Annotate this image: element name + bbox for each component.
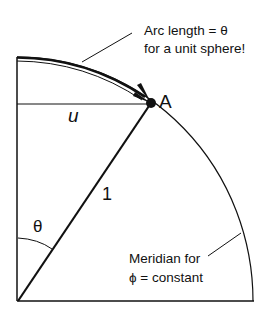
- point-a: [146, 98, 156, 108]
- u-label: u: [68, 105, 79, 126]
- point-a-label: A: [159, 91, 172, 112]
- meridian-note-line2: ϕ = constant: [129, 270, 203, 285]
- meridian-diagram: A u 1 θ Arc length = θ for a unit sphere…: [0, 0, 270, 321]
- arc-length-highlight: [17, 58, 145, 98]
- arc-note-line2: for a unit sphere!: [144, 41, 245, 56]
- arc-note-leader: [82, 33, 132, 62]
- theta-angle-arc: [18, 238, 52, 249]
- theta-label: θ: [33, 217, 42, 236]
- arc-note-line1: Arc length = θ: [144, 23, 228, 38]
- meridian-note-leader: [208, 233, 241, 256]
- radius-label: 1: [102, 184, 112, 204]
- meridian-note-line1: Meridian for: [129, 251, 201, 266]
